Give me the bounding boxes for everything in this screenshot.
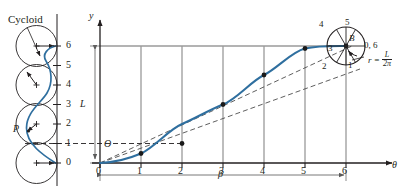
theta-axis-label: θ (392, 160, 397, 170)
cycloid-displacement-figure: Cycloid P 0 1 2 3 4 5 6 L y O 0 1 2 3 4 … (0, 0, 407, 190)
data-point-3 (221, 102, 226, 107)
point-p-marker (27, 129, 30, 132)
rotation-direction-arrow (349, 51, 358, 56)
crank-center-dot (345, 45, 348, 48)
radius-equation-fraction: L 2π (382, 51, 392, 69)
xtick-label-4: 4 (260, 166, 265, 176)
data-point-group (139, 44, 349, 156)
xtick-label-0: 0 (96, 166, 101, 176)
data-point-2 (180, 141, 185, 146)
crank-label-5: 5 (345, 18, 350, 27)
radius-equation: r = L 2π (368, 51, 392, 69)
radius-equation-prefix: r = (368, 55, 380, 65)
data-point-4 (262, 73, 267, 78)
point-p-label: P (13, 124, 19, 134)
origin-label: O (104, 139, 111, 149)
radius-pointer-upper (27, 72, 37, 85)
xtick-label-2: 2 (178, 166, 183, 176)
vertical-scale-group (53, 46, 100, 163)
crank-center-label: B (349, 34, 355, 43)
stroke-dimension-label: L (80, 99, 86, 109)
radius-equation-leader (352, 57, 364, 60)
ytick-label-3: 3 (66, 99, 71, 109)
crank-label-2: 2 (322, 62, 327, 71)
xtick-label-6: 6 (342, 166, 347, 176)
beta-dimension-label: β (218, 169, 223, 179)
xtick-label-1: 1 (137, 166, 142, 176)
data-point-5 (303, 46, 308, 51)
ytick-label-5: 5 (66, 60, 71, 70)
crank-center-label-text: B (349, 33, 355, 43)
ytick-label-4: 4 (66, 79, 71, 89)
dashed-chord-lower (100, 69, 360, 163)
ytick-label-2: 2 (66, 118, 71, 128)
figure-canvas (0, 0, 407, 190)
cycloid-generation-group (16, 14, 57, 186)
ytick-label-6: 6 (66, 40, 71, 50)
crank-label-1: 1 (348, 61, 353, 70)
cycloid-caption: Cycloid (8, 14, 43, 25)
xtick-label-5: 5 (301, 166, 306, 176)
radius-equation-denominator: 2π (382, 60, 392, 68)
y-axis-label: y (89, 11, 93, 21)
crank-label-4: 4 (319, 20, 324, 29)
ytick-label-1: 1 (66, 138, 71, 148)
dashed-chord-upper (100, 46, 352, 163)
ytick-label-0: 0 (66, 157, 71, 167)
crank-label-3: 3 (328, 44, 333, 53)
cycloid-leader-line (27, 27, 40, 56)
data-point-1 (139, 151, 144, 156)
crank-label-0-6: 0, 6 (364, 41, 378, 50)
